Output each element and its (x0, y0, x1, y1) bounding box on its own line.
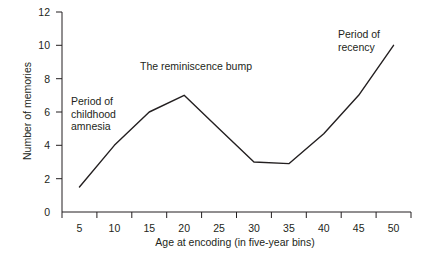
x-tick-label-25: 25 (207, 223, 231, 234)
x-tick-label-35: 35 (277, 223, 301, 234)
x-tick-label-10: 10 (102, 223, 126, 234)
x-tick-label-15: 15 (137, 223, 161, 234)
x-tick-label-45: 45 (347, 223, 371, 234)
x-tick-label-30: 30 (242, 223, 266, 234)
x-tick-label-5: 5 (68, 223, 92, 234)
x-tick-label-50: 50 (382, 223, 406, 234)
annotation-reminiscence-bump: The reminiscence bump (140, 60, 252, 73)
memory-distribution-chart: 12 10 8 6 4 2 0 5 10 15 20 25 30 35 40 4… (0, 0, 427, 260)
x-tick-label-40: 40 (312, 223, 336, 234)
annotation-recency: Period of recency (338, 28, 380, 53)
y-tick-label-0: 0 (28, 207, 50, 218)
y-tick-label-12: 12 (28, 7, 50, 18)
annotation-childhood-amnesia: Period of childhood amnesia (71, 95, 116, 133)
x-tick-label-20: 20 (172, 223, 196, 234)
y-axis-ticks (56, 12, 62, 179)
x-axis-title: Age at encoding (in five-year bins) (60, 236, 410, 248)
y-axis-title: Number of memories (21, 31, 33, 191)
x-axis-ticks (62, 212, 411, 218)
